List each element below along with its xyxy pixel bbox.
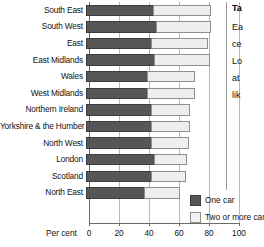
bar-row-label: South West [0,22,86,31]
stacked-bar [86,121,190,132]
bar-segment-two-or-more-cars [151,137,189,148]
stacked-bar [86,104,190,115]
chart-legend: One car Two or more cars [190,193,264,227]
x-tick [149,223,150,226]
bar-row-label: East Midlands [0,56,86,65]
bar-row-label: Northern Ireland [0,105,86,114]
side-text-line: Lo [232,53,264,70]
stacked-bar [86,154,187,165]
bar-track [86,52,185,69]
legend-item-two-or-more-cars: Two or more cars [190,210,264,224]
bar-segment-two-or-more-cars [151,121,190,132]
bar-track [86,68,185,85]
bar-row: Yorkshire & the Humber [0,118,185,135]
bar-segment-two-or-more-cars [153,5,212,16]
stacked-bar [86,54,210,65]
bar-row-label: East [0,39,86,48]
stacked-bar [86,137,189,148]
x-tick-label: 100 [232,228,246,238]
x-tick [119,223,120,226]
bar-rows: South EastSouth WestEastEast MidlandsWal… [0,2,185,201]
bar-segment-one-car [86,171,152,182]
bar-track [86,135,185,152]
stacked-bar [86,38,208,49]
bar-row: Northern Ireland [0,102,185,119]
bar-segment-one-car [86,154,155,165]
bar-segment-two-or-more-cars [151,38,208,49]
bar-track [86,168,185,185]
bar-segment-one-car [86,88,148,99]
bar-segment-one-car [86,121,152,132]
legend-swatch-one-car [190,195,201,206]
bar-segment-two-or-more-cars [151,104,190,115]
legend-swatch-two-or-more-cars [190,212,201,223]
side-text-line: lik [232,87,264,104]
bar-row: South West [0,19,185,36]
bar-segment-one-car [86,54,155,65]
x-tick-label: 60 [174,228,183,238]
x-tick-label: 0 [87,228,92,238]
stacked-bar [86,21,211,32]
bar-segment-one-car [86,38,152,49]
bar-row-label: West Midlands [0,89,86,98]
bar-track [86,118,185,135]
figure-root: South EastSouth WestEastEast MidlandsWal… [0,0,264,247]
bar-track [86,151,185,168]
stacked-bar [86,171,186,182]
bar-row: Wales [0,68,185,85]
bar-row-label: South East [0,6,86,15]
bar-segment-two-or-more-cars [147,71,195,82]
bar-row: Scotland [0,168,185,185]
legend-label-one-car: One car [205,196,235,205]
x-tick [179,223,180,226]
bar-row-label: London [0,155,86,164]
x-tick-label: 40 [144,228,153,238]
bar-segment-one-car [86,187,145,198]
side-text-title: Ta [232,3,264,14]
bar-row: West Midlands [0,85,185,102]
bar-track [86,102,185,119]
bar-row-label: Scotland [0,172,86,181]
bar-segment-one-car [86,104,152,115]
bar-row: North West [0,135,185,152]
bar-segment-two-or-more-cars [154,154,187,165]
bar-row: South East [0,2,185,19]
stacked-bar [86,88,195,99]
bar-segment-one-car [86,5,154,16]
bar-chart: South EastSouth WestEastEast MidlandsWal… [0,0,185,247]
legend-item-one-car: One car [190,193,264,207]
bar-segment-one-car [86,21,157,32]
side-text-line: Ea [232,19,264,36]
x-tick [89,223,90,226]
bar-row: East [0,35,185,52]
bar-track [86,35,185,52]
bar-segment-two-or-more-cars [154,54,210,65]
bar-track [86,19,185,36]
bar-track [86,185,185,202]
bar-row-label: North East [0,188,86,197]
side-text-line: at [232,70,264,87]
bar-track [86,2,185,19]
stacked-bar [86,187,180,198]
column-divider [226,2,227,190]
stacked-bar [86,5,211,16]
stacked-bar [86,71,195,82]
side-text-column: Ta Ea ce Lo at lik [232,0,264,190]
bar-segment-one-car [86,137,152,148]
legend-label-two-or-more-cars: Two or more cars [205,213,264,222]
bar-row: East Midlands [0,52,185,69]
bar-row-label: North West [0,139,86,148]
x-tick-label: 20 [114,228,123,238]
x-axis-label: Per cent [46,228,77,238]
bar-segment-two-or-more-cars [151,171,186,182]
bar-row-label: Wales [0,72,86,81]
side-text-line: ce [232,36,264,53]
gridline [209,2,210,223]
bar-row: North East [0,185,185,202]
bar-row: London [0,151,185,168]
bar-segment-two-or-more-cars [156,21,212,32]
x-tick-label: 80 [204,228,213,238]
bar-row-label: Yorkshire & the Humber [0,122,86,131]
bar-segment-two-or-more-cars [147,88,195,99]
bar-segment-two-or-more-cars [144,187,180,198]
